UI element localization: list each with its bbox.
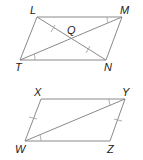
vertex-label-m: M xyxy=(120,4,130,16)
angle-arc-m xyxy=(107,17,108,23)
vertex-label-q: Q xyxy=(67,24,76,36)
vertex-label-n: N xyxy=(104,61,112,73)
parallelogram-wxyz xyxy=(25,99,125,141)
diagonal-wy xyxy=(25,99,125,141)
vertex-label-l: L xyxy=(30,4,36,16)
vertex-label-y: Y xyxy=(122,86,130,98)
vertex-label-w: W xyxy=(15,143,27,155)
angle-arc-y xyxy=(109,99,110,105)
vertex-label-x: X xyxy=(33,86,42,98)
geometry-diagram: L M Q T N X Y W Z xyxy=(0,0,143,160)
vertex-label-t: T xyxy=(15,61,23,73)
angle-arc-t xyxy=(34,54,35,60)
vertex-label-z: Z xyxy=(106,143,115,155)
angle-arc-w xyxy=(40,135,41,141)
